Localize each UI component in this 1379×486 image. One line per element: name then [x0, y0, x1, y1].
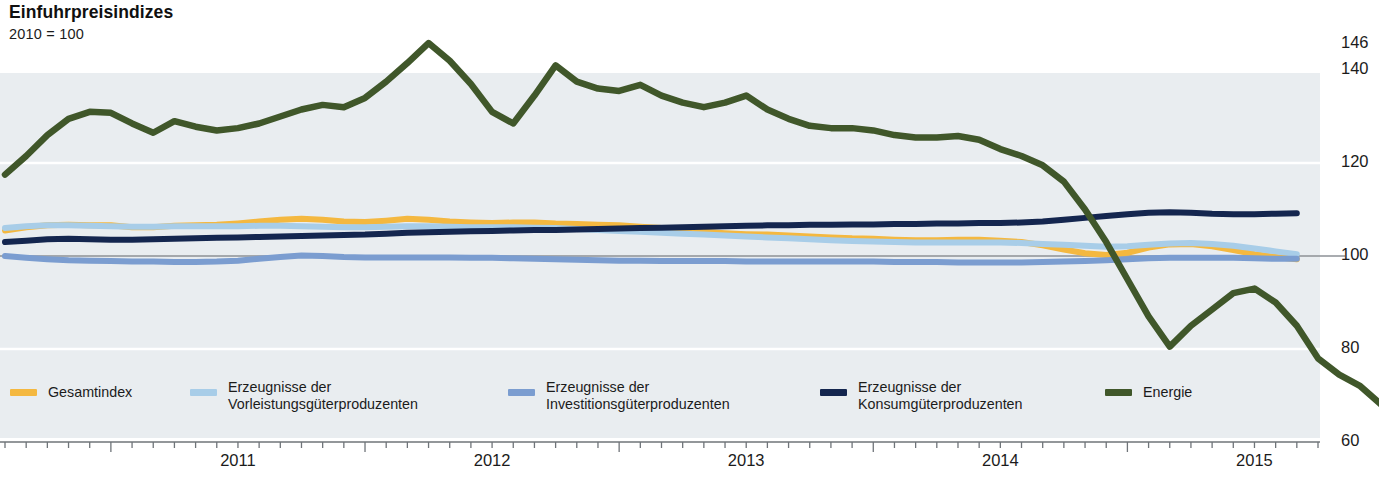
- legend-item-4[interactable]: Energie: [1105, 372, 1192, 401]
- legend-item-1[interactable]: Erzeugnisse der Vorleistungsgüterproduze…: [190, 372, 418, 412]
- legend-label: Erzeugnisse der Investitionsgüterproduze…: [546, 372, 730, 412]
- legend-swatch-icon: [820, 389, 847, 396]
- y-tick-label-100: 100: [1341, 245, 1369, 264]
- legend-item-0[interactable]: Gesamtindex: [10, 372, 132, 401]
- legend-label: Energie: [1143, 372, 1192, 401]
- legend-label: Erzeugnisse der Vorleistungsgüterproduze…: [228, 372, 418, 412]
- gridlines: [0, 70, 1320, 349]
- legend-label: Gesamtindex: [48, 372, 132, 401]
- x-axis: [0, 442, 1320, 452]
- series-lines: [5, 43, 1379, 405]
- legend-swatch-icon: [190, 389, 217, 396]
- y-tick-label-140: 140: [1341, 59, 1369, 78]
- legend-swatch-icon: [1105, 389, 1132, 396]
- y-tick-label-60: 60: [1341, 431, 1359, 450]
- y-tick-label-120: 120: [1341, 152, 1369, 171]
- legend-item-3[interactable]: Erzeugnisse der Konsumgüterproduzenten: [820, 372, 1023, 412]
- legend-label: Erzeugnisse der Konsumgüterproduzenten: [858, 372, 1023, 412]
- x-tick-label-2014: 2014: [982, 451, 1019, 470]
- y-tick-label-80: 80: [1341, 338, 1359, 357]
- y-tick-label-146: 146: [1341, 33, 1369, 52]
- chart-page: Einfuhrpreisindizes 2010 = 100 608010012…: [0, 0, 1379, 486]
- x-tick-label-2012: 2012: [474, 451, 511, 470]
- x-tick-label-2013: 2013: [728, 451, 765, 470]
- chart-legend: GesamtindexErzeugnisse der Vorleistungsg…: [0, 372, 1320, 416]
- legend-swatch-icon: [10, 389, 37, 396]
- legend-item-2[interactable]: Erzeugnisse der Investitionsgüterproduze…: [508, 372, 730, 412]
- x-tick-label-2011: 2011: [220, 451, 255, 470]
- x-tick-label-2015: 2015: [1236, 451, 1273, 470]
- legend-swatch-icon: [508, 389, 535, 396]
